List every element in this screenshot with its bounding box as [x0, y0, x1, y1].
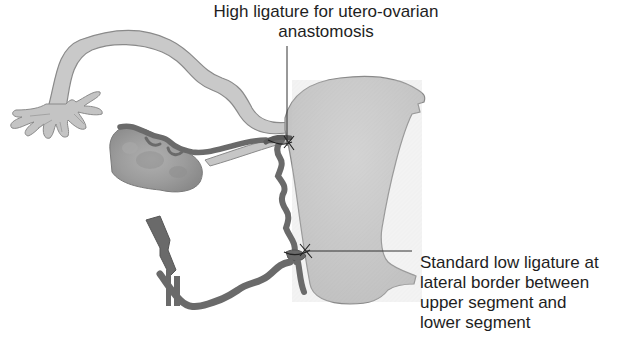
label-low-ligature-line-4: lower segment	[420, 313, 636, 333]
internal-iliac-vessel	[146, 216, 180, 306]
label-low-ligature-line-3: upper segment and	[420, 293, 636, 313]
label-low-ligature: Standard low ligature at lateral border …	[420, 253, 636, 333]
label-low-ligature-line-2: lateral border between	[420, 273, 636, 293]
uterine-artery-ligation-diagram: High ligature for utero-ovarian anastomo…	[0, 0, 636, 346]
label-high-ligature-line-2: anastomosis	[200, 22, 452, 42]
label-high-ligature: High ligature for utero-ovarian anastomo…	[200, 2, 452, 42]
label-high-ligature-line-1: High ligature for utero-ovarian	[200, 2, 452, 22]
uterus	[285, 77, 425, 305]
label-low-ligature-line-1: Standard low ligature at	[420, 253, 636, 273]
